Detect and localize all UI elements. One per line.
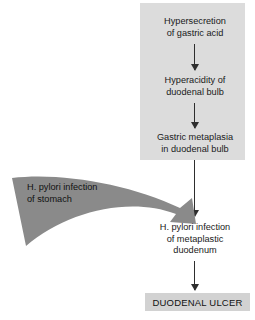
node-hp-duodenum-line-3: duodenum	[139, 245, 251, 257]
curved-arrow-label-line-2: of stomach	[27, 194, 142, 206]
node-hp-infection-metaplastic-duodenum: H. pylori infection of metaplastic duode…	[139, 222, 251, 257]
node-hypersecretion-line-1: Hypersecretion	[139, 16, 251, 28]
node-hypersecretion-line-2: of gastric acid	[139, 28, 251, 40]
node-gastric-metaplasia-line-1: Gastric metaplasia	[139, 132, 251, 144]
node-hypersecretion: Hypersecretion of gastric acid	[139, 16, 251, 39]
node-gastric-metaplasia: Gastric metaplasia in duodenal bulb	[139, 132, 251, 155]
arrow-hypersecretion-to-hyperacidity	[194, 44, 195, 70]
arrow-head-icon	[191, 64, 199, 71]
outcome-box-duodenal-ulcer: DUODENAL ULCER	[145, 293, 250, 311]
arrow-hp-duodenum-to-outcome	[194, 261, 195, 290]
node-gastric-metaplasia-line-2: in duodenal bulb	[139, 144, 251, 156]
curved-arrow-label: H. pylori infection of stomach	[27, 182, 142, 205]
node-hp-duodenum-line-2: of metaplastic	[139, 234, 251, 246]
arrow-head-icon	[191, 122, 199, 129]
flowchart-diagram: Hypersecretion of gastric acid Hyperacid…	[0, 0, 255, 320]
arrow-hyperacidity-to-metaplasia	[194, 103, 195, 128]
curved-arrow-label-line-1: H. pylori infection	[27, 182, 142, 194]
node-hp-duodenum-line-1: H. pylori infection	[139, 222, 251, 234]
node-hyperacidity-line-1: Hyperacidity of	[139, 75, 251, 87]
node-hyperacidity-line-2: duodenal bulb	[139, 87, 251, 99]
outcome-label: DUODENAL ULCER	[152, 297, 242, 308]
arrow-head-icon	[191, 284, 199, 291]
node-hyperacidity: Hyperacidity of duodenal bulb	[139, 75, 251, 98]
